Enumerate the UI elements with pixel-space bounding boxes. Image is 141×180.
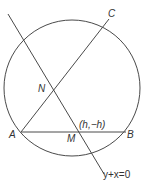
- line-y-plus-x-equals-0: [8, 14, 104, 174]
- label-B: B: [127, 129, 134, 140]
- label-A: A: [8, 129, 16, 140]
- line-AC: [21, 19, 109, 132]
- label-C: C: [108, 8, 116, 19]
- label-N: N: [38, 83, 46, 94]
- geometry-diagram: C N A B M (h,−h) y+x=0: [0, 0, 141, 180]
- label-M: M: [67, 133, 76, 144]
- label-line-equation: y+x=0: [103, 169, 131, 180]
- label-m-coords: (h,−h): [79, 119, 105, 130]
